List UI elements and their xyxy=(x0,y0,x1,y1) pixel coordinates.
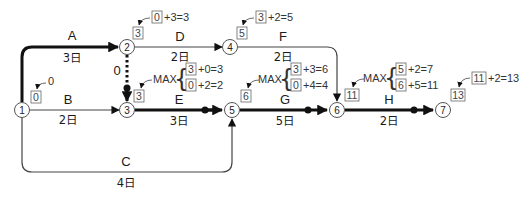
activity-d: D 2日 xyxy=(135,29,222,64)
activity-b: B 2日 xyxy=(29,92,119,127)
node-1: 1 xyxy=(15,103,30,118)
svg-text:3: 3 xyxy=(135,27,141,39)
svg-text:+5=11: +5=11 xyxy=(408,79,438,91)
activity-a-label: A xyxy=(68,28,77,43)
svg-text:7: 7 xyxy=(440,105,446,116)
activity-g: G 5日 xyxy=(240,92,327,128)
svg-text:3: 3 xyxy=(258,11,264,23)
dummy-activity: 0 xyxy=(113,55,130,101)
svg-text:4: 4 xyxy=(227,42,233,53)
activity-e-label: E xyxy=(175,92,184,107)
svg-text:2: 2 xyxy=(124,42,130,53)
dummy-label: 0 xyxy=(113,63,120,78)
earliest-time-node-7: 13 11 +2=13 xyxy=(451,72,519,101)
activity-c-duration: 4日 xyxy=(117,176,135,190)
svg-text:+2=7: +2=7 xyxy=(408,63,433,75)
activity-b-duration: 2日 xyxy=(59,113,77,127)
activity-h-label: H xyxy=(384,92,393,107)
activity-e: E 3日 xyxy=(135,92,222,128)
node-5: 5 xyxy=(225,103,240,118)
node-3: 3 xyxy=(120,103,135,118)
activity-f-label: F xyxy=(279,29,287,44)
earliest-time-node-1: 0 0 xyxy=(31,75,54,103)
activity-f-duration: 2日 xyxy=(274,50,292,64)
svg-text:13: 13 xyxy=(452,89,464,101)
activity-a-duration: 3日 xyxy=(63,51,81,65)
svg-text:0: 0 xyxy=(33,91,39,103)
activity-c: C 4日 xyxy=(22,117,232,190)
activity-d-duration: 2日 xyxy=(171,50,189,64)
node-2: 2 xyxy=(120,40,135,55)
svg-text:0: 0 xyxy=(188,79,194,91)
svg-text:+2=5: +2=5 xyxy=(268,11,293,23)
svg-text:+2=13: +2=13 xyxy=(488,72,519,84)
svg-text:11: 11 xyxy=(474,72,485,84)
svg-text:6: 6 xyxy=(334,105,340,116)
activity-d-label: D xyxy=(175,29,184,44)
svg-text:5: 5 xyxy=(229,105,235,116)
svg-text:0: 0 xyxy=(48,75,54,87)
svg-text:1: 1 xyxy=(19,105,25,116)
svg-text:6: 6 xyxy=(398,79,404,91)
svg-text:0: 0 xyxy=(293,79,299,91)
svg-text:3: 3 xyxy=(124,105,130,116)
activity-b-label: B xyxy=(64,92,73,107)
network-diagram: A 3日 B 2日 C 4日 0 D 2日 E 3日 F 2日 xyxy=(0,0,525,197)
activity-c-label: C xyxy=(121,154,130,169)
svg-text:6: 6 xyxy=(243,90,249,102)
svg-text:3: 3 xyxy=(136,90,142,102)
svg-text:+2=2: +2=2 xyxy=(198,79,223,91)
svg-text:5: 5 xyxy=(398,63,404,75)
svg-text:5: 5 xyxy=(239,27,245,39)
svg-text:+3=6: +3=6 xyxy=(303,63,328,75)
node-7: 7 xyxy=(436,103,451,118)
node-6: 6 xyxy=(330,103,345,118)
node-4: 4 xyxy=(223,40,238,55)
svg-text:+4=4: +4=4 xyxy=(303,79,328,91)
svg-text:+0=3: +0=3 xyxy=(198,63,223,75)
svg-text:0: 0 xyxy=(154,11,160,23)
svg-text:3: 3 xyxy=(293,63,299,75)
activity-g-label: G xyxy=(280,92,290,107)
svg-text:11: 11 xyxy=(347,89,358,101)
svg-text:+3=3: +3=3 xyxy=(164,11,189,23)
activity-g-duration: 5日 xyxy=(276,114,294,128)
svg-text:3: 3 xyxy=(188,63,194,75)
activity-e-duration: 3日 xyxy=(170,114,188,128)
activity-h-duration: 2日 xyxy=(380,114,398,128)
